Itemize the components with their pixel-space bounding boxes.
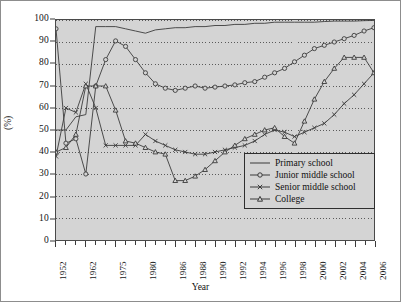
y-tick-label: 0 bbox=[44, 236, 49, 246]
x-tick-label: 1975 bbox=[119, 261, 128, 280]
legend-label: Primary school bbox=[273, 157, 333, 169]
legend-label: Junior middle school bbox=[273, 169, 355, 181]
legend-item[interactable]: Primary school bbox=[247, 157, 370, 169]
x-tick-mark bbox=[165, 241, 166, 245]
x-tick-mark bbox=[155, 241, 156, 245]
legend-item[interactable]: Junior middle school bbox=[247, 169, 370, 181]
x-tick-label: 1952 bbox=[59, 261, 68, 280]
y-axis-ticks: 0102030405060708090100 bbox=[1, 19, 55, 241]
x-tick-label: 2000 bbox=[319, 261, 328, 280]
x-tick-label: 1998 bbox=[299, 261, 308, 280]
x-tick-mark bbox=[315, 241, 316, 247]
y-tick-label: 70 bbox=[39, 81, 49, 91]
x-tick-mark bbox=[375, 241, 376, 247]
x-tick-mark bbox=[175, 241, 176, 247]
x-tick-mark bbox=[325, 241, 326, 245]
y-tick-label: 80 bbox=[39, 59, 49, 69]
x-tick-mark bbox=[345, 241, 346, 245]
x-tick-mark bbox=[335, 241, 336, 247]
x-tick-mark bbox=[365, 241, 366, 245]
x-tick-label: 1990 bbox=[219, 261, 228, 280]
x-tick-label: 1992 bbox=[239, 261, 248, 280]
legend-item[interactable]: Senior middle school bbox=[247, 181, 370, 193]
y-tick-label: 20 bbox=[39, 192, 49, 202]
legend-marker-triangle-icon bbox=[247, 193, 273, 205]
x-tick-label: 1986 bbox=[179, 261, 188, 280]
legend-marker-x-icon bbox=[247, 181, 273, 193]
x-tick-label: 1988 bbox=[199, 261, 208, 280]
x-tick-label: 1962 bbox=[89, 261, 98, 280]
y-tick-label: 40 bbox=[39, 147, 49, 157]
chart-legend: Primary schoolJunior middle schoolSenior… bbox=[244, 153, 375, 209]
x-tick-mark bbox=[85, 241, 86, 247]
x-tick-mark bbox=[195, 241, 196, 247]
x-tick-mark bbox=[55, 241, 56, 247]
x-tick-label: 1980 bbox=[149, 261, 158, 280]
y-tick-label: 10 bbox=[39, 214, 49, 224]
x-tick-label: 1994 bbox=[259, 261, 268, 280]
x-tick-mark bbox=[245, 241, 246, 245]
x-tick-mark bbox=[135, 241, 136, 245]
x-tick-label: 1996 bbox=[279, 261, 288, 280]
legend-item[interactable]: College bbox=[247, 193, 370, 205]
x-tick-mark bbox=[105, 241, 106, 245]
y-tick-label: 50 bbox=[39, 125, 49, 135]
x-tick-mark bbox=[65, 241, 66, 245]
legend-marker-none-icon bbox=[247, 157, 273, 169]
x-tick-mark bbox=[355, 241, 356, 247]
x-tick-mark bbox=[305, 241, 306, 245]
x-tick-mark bbox=[235, 241, 236, 247]
chart-figure: (%) 0102030405060708090100 1952196219751… bbox=[0, 0, 401, 302]
legend-label: Senior middle school bbox=[273, 181, 356, 193]
x-tick-label: 2004 bbox=[359, 261, 368, 280]
x-tick-mark bbox=[265, 241, 266, 245]
x-tick-mark bbox=[125, 241, 126, 245]
y-tick-label: 90 bbox=[39, 36, 49, 46]
x-tick-mark bbox=[115, 241, 116, 247]
x-tick-mark bbox=[295, 241, 296, 247]
x-tick-mark bbox=[255, 241, 256, 247]
legend-marker-circle-icon bbox=[247, 169, 273, 181]
x-tick-mark bbox=[75, 241, 76, 245]
x-tick-label: 2002 bbox=[339, 261, 348, 280]
x-axis-title: Year bbox=[1, 282, 400, 292]
x-tick-mark bbox=[225, 241, 226, 245]
x-tick-mark bbox=[95, 241, 96, 245]
x-tick-mark bbox=[275, 241, 276, 247]
x-tick-label: 2006 bbox=[379, 261, 388, 280]
series-primary-school bbox=[56, 20, 374, 130]
x-axis-tick-labels: 1952196219751980198619881990199219941996… bbox=[55, 248, 375, 282]
x-tick-mark bbox=[145, 241, 146, 247]
x-tick-mark bbox=[185, 241, 186, 245]
x-tick-mark bbox=[215, 241, 216, 247]
y-tick-label: 30 bbox=[39, 170, 49, 180]
x-tick-mark bbox=[205, 241, 206, 245]
legend-label: College bbox=[273, 193, 305, 205]
x-tick-mark bbox=[285, 241, 286, 245]
y-tick-label: 60 bbox=[39, 103, 49, 113]
y-tick-label: 100 bbox=[34, 14, 49, 24]
